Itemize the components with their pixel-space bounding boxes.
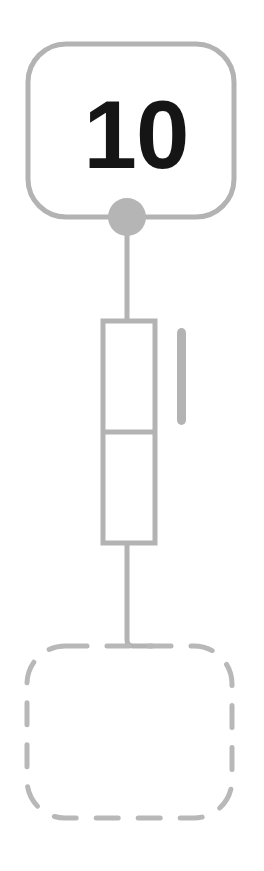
node-top-card-label: 10: [84, 81, 189, 188]
diagram-svg: 10: [0, 0, 264, 871]
diagram-canvas: 10: [0, 0, 264, 871]
connector-dot-icon: [108, 198, 146, 236]
connector-cells-to-placeholder: [127, 543, 152, 646]
node-bottom-placeholder[interactable]: [27, 646, 232, 818]
node-side-bar[interactable]: [177, 328, 186, 425]
